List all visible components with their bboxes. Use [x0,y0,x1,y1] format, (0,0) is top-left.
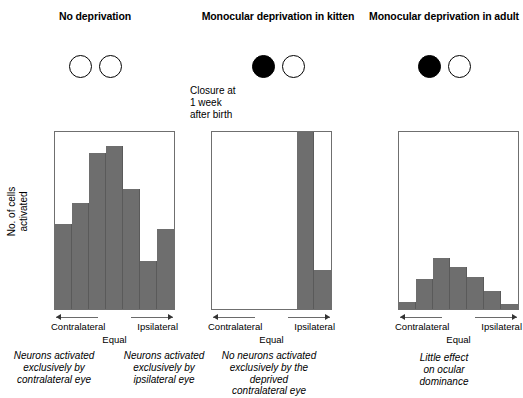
eye-pair [369,55,519,78]
panel-no-deprivation: No deprivation [0,0,190,398]
right-eye-icon [282,55,305,78]
plot-area [398,131,519,310]
arrow-right-icon [475,313,517,321]
eye-pair [198,55,358,78]
axis-arrow-row [394,313,523,321]
panel-title: No deprivation [10,10,180,23]
caption-left: Little effect on ocular dominance [385,352,503,387]
bar-series [399,132,518,309]
bar [484,291,501,309]
plot-box [54,131,175,310]
axis-label-contralateral: Contralateral [208,321,262,334]
panel-monocular-deprivation-adult: Monocular deprivation in adult [365,0,523,398]
caption-left: Neurons activated exclusively by contral… [2,350,106,385]
bar [314,270,331,309]
arrow-right-icon [288,313,330,321]
bar [157,229,174,309]
bar [72,203,89,309]
x-axis: Contralateral Ipsilateral Equal [394,313,523,346]
bar-series [55,132,174,309]
axis-label-ipsilateral: Ipsilateral [294,321,335,334]
bar [123,189,140,309]
bar [297,132,314,309]
bar [89,153,106,309]
right-eye-icon [99,55,122,78]
axis-label-ipsilateral: Ipsilateral [481,321,522,334]
plot-box [398,131,519,310]
left-eye-icon [418,55,441,78]
closure-note: Closure at 1 week after birth [190,85,268,121]
left-eye-icon [69,55,92,78]
arrow-left-icon [213,313,255,321]
right-eye-icon [448,55,471,78]
x-axis: Contralateral Ipsilateral Equal [207,313,336,346]
bar [399,302,416,309]
axis-label-row: Contralateral Ipsilateral [207,321,336,334]
eye-pair [10,55,180,78]
arrow-left-icon [56,313,98,321]
bar [450,267,467,309]
axis-label-contralateral: Contralateral [51,321,105,334]
arrow-right-icon [131,313,173,321]
axis-label-contralateral: Contralateral [395,321,449,334]
left-eye-icon [252,55,275,78]
caption-left: No neurons activated exclusively by the … [205,350,333,397]
x-axis: Contralateral Ipsilateral Equal [50,313,179,346]
axis-label-row: Contralateral Ipsilateral [394,321,523,334]
bar-series [212,132,331,309]
panel-title: Monocular deprivation in adult [369,10,519,23]
bar [416,279,433,309]
axis-arrow-row [207,313,336,321]
plot-area [211,131,332,310]
axis-label-equal: Equal [50,334,179,346]
bar [501,304,518,309]
axis-label-equal: Equal [207,334,336,346]
plot-area [54,131,175,310]
ocular-dominance-figure: No. of cells activated No deprivation [0,0,523,398]
axis-label-row: Contralateral Ipsilateral [50,321,179,334]
panel-monocular-deprivation-kitten: Monocular deprivation in kitten Closure … [190,0,365,398]
axis-arrow-row [50,313,179,321]
panel-title: Monocular deprivation in kitten [198,10,358,23]
arrow-left-icon [400,313,442,321]
bar [140,261,157,309]
plot-box [211,131,332,310]
bar [106,146,123,309]
axis-label-equal: Equal [394,334,523,346]
axis-label-ipsilateral: Ipsilateral [137,321,178,334]
bar [467,277,484,309]
bar [55,224,72,309]
bar [433,258,450,309]
